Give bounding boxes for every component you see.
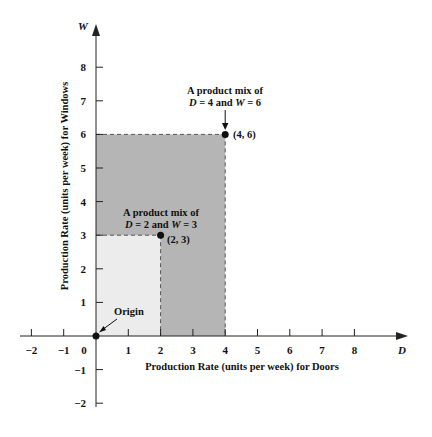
svg-text:3: 3 <box>190 344 196 356</box>
svg-text:−1: −1 <box>74 364 86 376</box>
svg-text:2: 2 <box>81 263 87 275</box>
x-tick-labels: −2 −1 0 1 2 3 4 5 6 7 8 <box>26 344 358 356</box>
svg-text:4: 4 <box>222 344 228 356</box>
y-axis-variable: W <box>78 20 89 32</box>
svg-text:−1: −1 <box>58 344 70 356</box>
svg-text:8: 8 <box>352 344 358 356</box>
chart-canvas: −2 −1 0 1 2 3 4 5 6 7 8 D −2 −1 1 2 3 4 … <box>0 0 432 437</box>
svg-text:−2: −2 <box>26 344 38 356</box>
point-4-6 <box>222 131 229 138</box>
mix1-annotation-line2: D = 2 and W = 3 <box>124 219 197 230</box>
y-axis-title: Production Rate (units per week) for Win… <box>59 82 71 290</box>
origin-label: Origin <box>114 306 144 317</box>
svg-text:5: 5 <box>81 162 87 174</box>
mix1-annotation-line1: A product mix of <box>123 207 199 218</box>
svg-text:0: 0 <box>81 344 87 356</box>
x-axis-arrow-icon <box>396 332 408 340</box>
svg-text:1: 1 <box>81 296 87 308</box>
point-2-3-label: (2, 3) <box>167 234 190 246</box>
svg-text:7: 7 <box>319 344 325 356</box>
mix2-annotation-line1: A product mix of <box>187 85 263 96</box>
svg-text:6: 6 <box>81 128 87 140</box>
svg-text:3: 3 <box>81 229 87 241</box>
svg-text:2: 2 <box>158 344 164 356</box>
svg-text:4: 4 <box>81 196 87 208</box>
x-axis-title: Production Rate (units per week) for Doo… <box>145 361 339 373</box>
svg-text:7: 7 <box>81 95 87 107</box>
svg-text:1: 1 <box>126 344 132 356</box>
point-4-6-label: (4, 6) <box>233 129 256 141</box>
point-2-3 <box>157 232 164 239</box>
y-tick-labels: −2 −1 1 2 3 4 5 6 7 8 <box>74 61 86 409</box>
svg-text:5: 5 <box>255 344 261 356</box>
x-ticks <box>31 329 354 336</box>
x-axis-variable: D <box>397 344 406 356</box>
y-ticks <box>96 67 103 403</box>
origin-point <box>93 333 100 340</box>
svg-text:8: 8 <box>81 61 87 73</box>
svg-text:−2: −2 <box>74 397 86 409</box>
light-region <box>96 235 161 336</box>
y-axis-arrow-icon <box>92 24 100 36</box>
mix2-annotation-line2: D = 4 and W = 6 <box>188 97 261 108</box>
mix2-arrow-icon <box>222 123 228 130</box>
svg-text:6: 6 <box>287 344 293 356</box>
